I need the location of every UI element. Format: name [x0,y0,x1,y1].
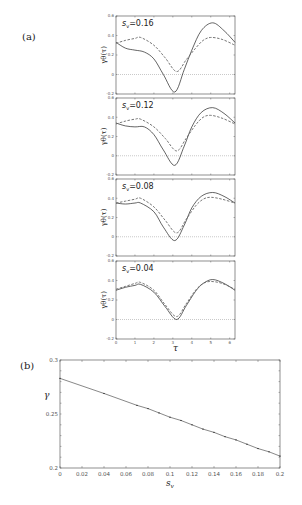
svg-text:0: 0 [111,153,114,158]
svg-text:0.4: 0.4 [108,196,115,201]
y-axis-label: γθ(τ) [100,291,108,309]
svg-text:0.4: 0.4 [108,278,115,283]
dashed-curve [116,37,235,72]
svg-text:0: 0 [111,234,114,239]
svg-text:-0.2: -0.2 [106,336,114,341]
svg-text:0.16: 0.16 [230,471,243,477]
panel-a-subplot-4: -0.200.20.40.60123456sv=0.04γθ(τ) [100,258,235,345]
svg-text:0.2: 0.2 [276,471,285,477]
y-axis-label-b: γ [44,390,50,400]
figure-canvas: -0.200.20.40.6sv=0.16γθ(τ)-0.200.20.40.6… [0,0,302,505]
svg-text:0.3: 0.3 [49,357,58,363]
svg-text:0.6: 0.6 [108,13,115,18]
svg-text:0.4: 0.4 [108,115,115,120]
svg-text:0.04: 0.04 [98,471,111,477]
panel-annotation: sv=0.12 [122,101,154,111]
svg-text:0.1: 0.1 [166,471,175,477]
svg-text:0.25: 0.25 [46,411,59,417]
svg-text:2: 2 [153,340,156,345]
svg-text:0.2: 0.2 [108,297,115,302]
svg-text:4: 4 [191,340,194,345]
svg-text:0.4: 0.4 [108,33,115,38]
svg-text:0.6: 0.6 [108,258,115,263]
panel-b-plot: 00.020.040.060.080.10.120.140.160.180.20… [44,357,284,489]
dashed-curve [116,115,235,151]
svg-text:0.18: 0.18 [252,471,265,477]
solid-curve [116,108,235,166]
solid-curve [116,23,235,92]
panel-a-subplot-3: -0.200.20.40.6sv=0.08γθ(τ) [100,176,235,258]
panel-annotation: sv=0.08 [122,182,154,192]
svg-text:0.08: 0.08 [142,471,155,477]
y-axis-label: γθ(τ) [100,46,108,64]
y-axis-label: γθ(τ) [100,208,108,226]
svg-text:6: 6 [228,340,231,345]
dashed-curve [116,281,235,316]
svg-text:0: 0 [115,340,118,345]
dashed-curve [116,197,235,233]
svg-text:0.2: 0.2 [108,134,115,139]
svg-text:0.2: 0.2 [108,215,115,220]
svg-text:1: 1 [134,340,137,345]
svg-text:0.06: 0.06 [120,471,133,477]
svg-text:5: 5 [209,340,212,345]
svg-text:0.12: 0.12 [186,471,198,477]
panel-annotation: sv=0.16 [122,19,154,29]
y-axis-label: γθ(τ) [100,127,108,145]
panel-annotation: sv=0.04 [122,264,154,274]
svg-text:0.14: 0.14 [208,471,221,477]
svg-text:0.2: 0.2 [108,52,115,57]
svg-text:0.02: 0.02 [76,471,88,477]
svg-text:0.2: 0.2 [49,465,58,471]
svg-text:0: 0 [111,72,114,77]
panel-a-subplot-1: -0.200.20.40.6sv=0.16γθ(τ) [100,13,235,96]
svg-text:0: 0 [111,317,114,322]
panel-a-subplot-2: -0.200.20.40.6sv=0.12γθ(τ) [100,95,235,177]
svg-text:0.6: 0.6 [108,95,115,100]
x-axis-label-a: τ [173,343,179,353]
svg-text:0.6: 0.6 [108,176,115,181]
x-axis-label-b: sv [166,478,175,489]
svg-text:0: 0 [58,471,62,477]
solid-curve [116,280,235,320]
